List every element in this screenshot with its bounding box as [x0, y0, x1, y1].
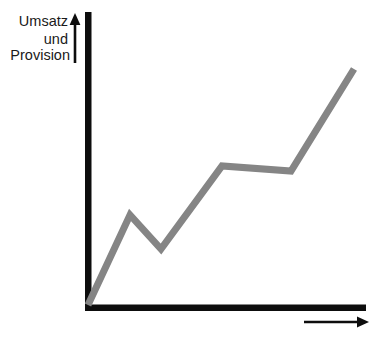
y-axis-direction-arrow-icon: [70, 13, 81, 63]
data-series-line: [88, 69, 354, 305]
y-axis-label-line-1: Umsatz: [19, 13, 68, 29]
y-axis-label-line-2: und: [44, 31, 68, 47]
y-axis-label: Umsatz und Provision: [10, 13, 70, 63]
line-chart: Umsatz und Provision: [0, 0, 378, 337]
x-axis-direction-arrow-icon: [304, 317, 369, 328]
horizontal-axis: [85, 305, 366, 312]
chart-canvas: Umsatz und Provision: [0, 0, 378, 337]
y-axis-label-line-3: Provision: [10, 47, 70, 63]
x-arrow-head: [357, 317, 369, 328]
y-arrow-head: [70, 13, 81, 25]
vertical-axis: [85, 12, 92, 311]
